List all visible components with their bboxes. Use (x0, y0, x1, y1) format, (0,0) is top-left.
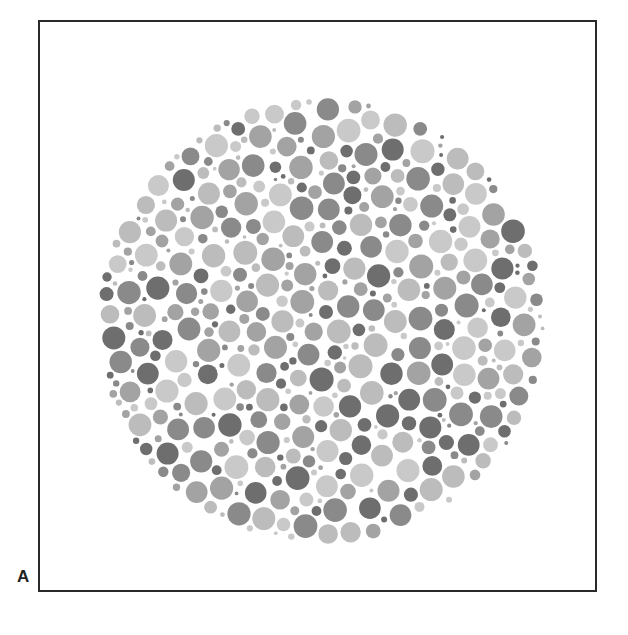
plate-dot (530, 293, 543, 306)
plate-dot (411, 139, 435, 163)
plate-dot (169, 253, 192, 276)
plate-dot (447, 424, 451, 428)
plate-dot (334, 362, 346, 374)
plate-dot (155, 379, 178, 402)
plate-dot (142, 217, 148, 223)
plate-dot (202, 244, 225, 267)
plate-dot (443, 173, 465, 195)
plate-dot (391, 302, 397, 308)
plate-dot (515, 271, 520, 276)
plate-dot (279, 244, 283, 248)
plate-dot (261, 247, 285, 271)
plate-dot (221, 266, 232, 277)
plate-dot (370, 291, 376, 297)
plate-dot (317, 440, 339, 462)
plate-dot (156, 261, 166, 271)
plate-dot (282, 225, 304, 247)
plate-dot (263, 211, 286, 234)
plate-dot (500, 401, 507, 408)
plate-dot (156, 235, 169, 248)
plate-dot (236, 291, 258, 313)
plate-dot (290, 196, 314, 220)
plate-dot (198, 299, 203, 304)
plate-dot (119, 221, 141, 243)
plate-dot (180, 216, 186, 222)
plate-dot (415, 502, 425, 512)
plate-dot (129, 413, 152, 436)
plate-dot (518, 340, 524, 346)
plate-dot (210, 280, 232, 302)
plate-dot (247, 448, 257, 458)
plate-dot (359, 202, 369, 212)
plate-dot (494, 282, 505, 293)
plate-dot (265, 105, 284, 124)
plate-dot (364, 333, 388, 357)
plate-dot (197, 167, 209, 179)
plate-dot (337, 119, 361, 143)
plate-dot (391, 279, 396, 284)
plate-dot (190, 450, 212, 472)
plate-dot (138, 271, 148, 281)
plate-dot (385, 240, 408, 263)
plate-dot (478, 368, 500, 390)
plate-dot (420, 195, 443, 218)
plate-dot (230, 382, 234, 386)
plate-dot (155, 435, 162, 442)
plate-dot (162, 200, 167, 205)
plate-dot (390, 504, 412, 526)
plate-dot (205, 134, 228, 157)
plate-dot (339, 395, 361, 417)
plate-dot (381, 517, 387, 523)
plate-dot (285, 272, 289, 276)
plate-dot (298, 137, 304, 143)
plate-dot (213, 388, 236, 411)
plate-dot (409, 255, 433, 279)
plate-dot (280, 362, 289, 371)
plate-dot (351, 342, 358, 349)
plate-dot (353, 324, 366, 337)
plate-dot (236, 155, 241, 160)
plate-dot (257, 431, 280, 454)
plate-dot (270, 148, 276, 154)
plate-dot (497, 365, 503, 371)
plate-dot (315, 261, 320, 266)
plate-dot (369, 488, 373, 492)
plate-dot (261, 199, 269, 207)
plate-dot (352, 164, 356, 168)
plate-dot (439, 153, 443, 157)
plate-dot (332, 220, 347, 235)
plate-dot (364, 187, 369, 192)
plate-dot (298, 344, 320, 366)
plate-dot (518, 244, 532, 258)
plate-dot (245, 482, 267, 504)
plate-dot (497, 331, 503, 337)
plate-dot (396, 187, 405, 196)
plate-dot (318, 199, 340, 221)
plate-dot (423, 388, 447, 412)
plate-dot (409, 337, 431, 359)
plate-dot (337, 241, 352, 256)
plate-dot (349, 354, 373, 378)
plate-dot (198, 364, 218, 384)
plate-dot (292, 426, 314, 448)
plate-dot (130, 338, 149, 357)
plate-dot (289, 395, 309, 415)
plate-dot (313, 396, 334, 417)
plate-dot (178, 318, 201, 341)
plate-dot (286, 466, 310, 490)
plate-dot (286, 253, 292, 259)
plate-dot (276, 379, 286, 389)
plate-dot (481, 229, 500, 248)
plate-dot (432, 221, 436, 225)
plate-dot (253, 181, 265, 193)
plate-dot (284, 112, 307, 135)
plate-dot (270, 161, 282, 173)
plate-dot (384, 310, 407, 333)
plate-dot (191, 308, 199, 316)
plate-dot (323, 173, 345, 195)
plate-dot (210, 477, 233, 500)
plate-dot (236, 403, 244, 411)
plate-dot (408, 234, 423, 249)
plate-dot (475, 426, 485, 436)
plate-dot (509, 387, 528, 406)
